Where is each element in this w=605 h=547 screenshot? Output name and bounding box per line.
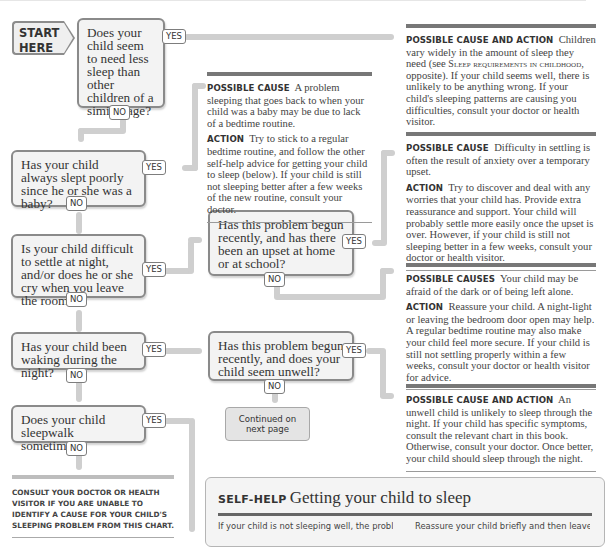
connector-q3-no: [76, 310, 82, 332]
question-text: Has this problem begun recently, and has…: [218, 217, 344, 271]
advice-label: Possible cause and action: [406, 395, 553, 405]
yes-tag[interactable]: YES: [142, 342, 166, 357]
continued-line1: Continued on: [226, 414, 309, 424]
advice-ref: Sleep requirements in childhood: [448, 58, 581, 69]
advice-unwell: Possible cause and action An unwell chil…: [406, 384, 596, 472]
connector-q4-yes: [164, 348, 202, 354]
advice-bar: [406, 132, 596, 136]
connector-q6-no-h: [274, 294, 384, 300]
cause-label: Possible cause: [406, 143, 489, 153]
connector-q1-no-v2: [78, 128, 84, 142]
no-tag[interactable]: NO: [66, 196, 87, 211]
connector-q1-no-h: [78, 128, 126, 134]
connector-q7-yes-v: [380, 348, 386, 398]
page-top-rule: [0, 0, 586, 1]
no-tag[interactable]: NO: [264, 379, 285, 394]
connector-q4-no: [76, 380, 82, 402]
yes-tag[interactable]: YES: [162, 29, 186, 44]
yes-tag[interactable]: YES: [342, 343, 366, 358]
connector-q3-yes-top: [188, 237, 202, 243]
question-need-less-sleep[interactable]: Does your child seem to need less sleep …: [77, 18, 165, 108]
action-text: Reassure your child. A night-light or le…: [406, 301, 594, 383]
connector-q5-yes: [164, 418, 192, 424]
continued-line2: next page: [226, 424, 309, 434]
continued-next-page-box[interactable]: Continued on next page: [225, 407, 310, 441]
advice-need-less-sleep: Possible cause and action Children vary …: [406, 24, 596, 135]
question-text: Has this problem begun recently, and doe…: [218, 338, 344, 379]
start-arrow-fill: [64, 23, 73, 53]
question-waking-during-night[interactable]: Has your child been waking during the ni…: [11, 332, 146, 370]
cause-label: Possible causes: [406, 274, 495, 284]
yes-tag[interactable]: YES: [142, 413, 166, 428]
connector-q6-no-top: [380, 268, 394, 274]
advice-bar: [406, 384, 596, 388]
advice-bar: [207, 72, 372, 76]
question-difficult-to-settle[interactable]: Is your child difficult to settle at nig…: [11, 234, 146, 298]
no-tag[interactable]: NO: [66, 368, 87, 383]
cause-label: Possible cause: [207, 83, 290, 93]
connector-q2-yes-top: [192, 83, 206, 89]
action-text: Try to stick to a regular bedtime routin…: [207, 133, 367, 215]
yes-tag[interactable]: YES: [142, 160, 166, 175]
connector-q3-yes-v: [188, 240, 194, 274]
advice-bar: [406, 24, 596, 28]
self-help-columns: If your child is not sleeping well, the …: [218, 520, 592, 532]
advice-bar: [406, 263, 596, 267]
question-sleepwalk[interactable]: Does your child sleepwalk sometimes?: [11, 405, 146, 443]
self-help-title: Self-helpGetting your child to sleep: [218, 488, 592, 510]
advice-since-baby: Possible cause A problem sleeping that g…: [207, 72, 372, 223]
self-help-panel: Self-helpGetting your child to sleep If …: [205, 477, 605, 547]
no-tag[interactable]: NO: [66, 292, 87, 307]
connector-q2-no: [76, 212, 82, 234]
start-line2: HERE: [19, 41, 64, 56]
question-seem-unwell[interactable]: Has this problem begun recently, and doe…: [208, 331, 354, 381]
no-tag[interactable]: NO: [66, 441, 87, 456]
connector-q2-yes-v: [192, 83, 198, 171]
action-label: Action: [406, 183, 443, 193]
connector-q7-yes-bot: [380, 393, 394, 399]
yes-tag[interactable]: YES: [142, 262, 166, 277]
self-help-col2: Reassure your child briefly and then lea…: [415, 520, 590, 532]
connector-q5-yes-v: [189, 418, 195, 532]
advice-label: Possible cause and action: [406, 35, 553, 45]
no-tag[interactable]: NO: [109, 105, 130, 120]
connector-q6-yes-top: [381, 150, 395, 156]
start-here-tag: START HERE: [12, 21, 64, 55]
self-help-rule: [218, 513, 592, 516]
no-tag[interactable]: NO: [264, 272, 285, 287]
self-help-keyword: Self-help: [218, 493, 287, 506]
self-help-col1: If your child is not sleeping well, the …: [218, 520, 393, 532]
advice-upset: Possible cause Difficulty in settling is…: [406, 132, 596, 271]
action-label: Action: [207, 134, 244, 144]
advice-afraid: Possible causes Your child may be afraid…: [406, 263, 596, 390]
self-help-heading: Getting your child to sleep: [290, 488, 471, 507]
consult-doctor-note: Consult your doctor or health visitor if…: [12, 475, 174, 538]
question-text: Does your child sleepwalk sometimes?: [21, 412, 105, 453]
connector-q1-yes: [184, 34, 394, 40]
start-line1: START: [19, 26, 64, 41]
action-label: Action: [406, 302, 443, 312]
connector-q6-yes-v: [381, 150, 387, 246]
yes-tag[interactable]: YES: [342, 234, 366, 249]
action-text: Try to discover and deal with any worrie…: [406, 182, 593, 264]
